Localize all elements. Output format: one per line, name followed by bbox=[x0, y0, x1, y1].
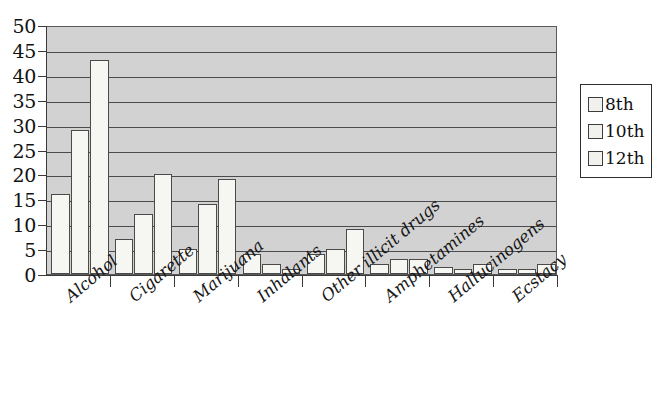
legend-item: 12th bbox=[588, 145, 651, 172]
y-axis-tick-label: 35 bbox=[2, 92, 36, 111]
y-axis-tick bbox=[38, 175, 47, 176]
legend-label: 8th bbox=[605, 96, 634, 113]
bar-chart: 05101520253035404550 AlcoholCigaretteMar… bbox=[0, 0, 663, 407]
x-axis-tick bbox=[174, 276, 175, 287]
legend: 8th10th12th bbox=[580, 84, 652, 178]
y-axis-tick bbox=[38, 225, 47, 226]
legend-swatch-icon bbox=[588, 151, 603, 166]
y-axis-tick bbox=[38, 275, 47, 276]
legend-label: 10th bbox=[605, 123, 644, 140]
y-axis-tick-label: 0 bbox=[2, 266, 36, 285]
y-axis-tick bbox=[38, 51, 47, 52]
y-axis-tick-label: 50 bbox=[2, 17, 36, 36]
gridline bbox=[47, 52, 556, 53]
x-axis-tick bbox=[557, 276, 558, 287]
bar bbox=[71, 130, 90, 274]
y-axis-tick bbox=[38, 126, 47, 127]
x-axis-tick bbox=[365, 276, 366, 287]
legend-swatch-icon bbox=[588, 124, 603, 139]
plot-area bbox=[46, 26, 557, 275]
bar bbox=[51, 194, 70, 274]
x-axis-tick bbox=[429, 276, 430, 287]
x-axis-tick bbox=[302, 276, 303, 287]
y-axis-tick-label: 5 bbox=[2, 241, 36, 260]
y-axis-labels: 05101520253035404550 bbox=[0, 0, 36, 407]
y-axis-tick-label: 25 bbox=[2, 142, 36, 161]
legend-label: 12th bbox=[605, 150, 644, 167]
gridline bbox=[47, 176, 556, 177]
y-axis-tick bbox=[38, 151, 47, 152]
x-axis-tick bbox=[493, 276, 494, 287]
gridline bbox=[47, 127, 556, 128]
y-axis-tick bbox=[38, 101, 47, 102]
y-axis-tick-label: 40 bbox=[2, 67, 36, 86]
y-axis-tick-label: 15 bbox=[2, 191, 36, 210]
gridline bbox=[47, 152, 556, 153]
bar bbox=[198, 204, 217, 274]
y-axis-tick bbox=[38, 250, 47, 251]
y-axis-tick bbox=[38, 26, 47, 27]
legend-item: 10th bbox=[588, 118, 651, 145]
legend-swatch-icon bbox=[588, 97, 603, 112]
gridline bbox=[47, 77, 556, 78]
bar bbox=[134, 214, 153, 274]
legend-item: 8th bbox=[588, 91, 651, 118]
y-axis-tick-label: 20 bbox=[2, 166, 36, 185]
y-axis-tick-label: 45 bbox=[2, 42, 36, 61]
y-axis-tick bbox=[38, 76, 47, 77]
y-axis-tick-label: 10 bbox=[2, 216, 36, 235]
bar bbox=[90, 60, 109, 274]
x-axis-tick bbox=[238, 276, 239, 287]
x-axis-tick bbox=[110, 276, 111, 287]
y-axis-tick bbox=[38, 200, 47, 201]
y-axis-tick-label: 30 bbox=[2, 117, 36, 136]
gridline bbox=[47, 201, 556, 202]
gridline bbox=[47, 102, 556, 103]
bar bbox=[498, 269, 517, 274]
